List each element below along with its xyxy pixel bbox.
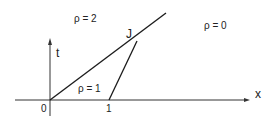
shock-line — [50, 13, 166, 100]
t-axis-arrow-icon — [48, 38, 52, 45]
characteristics-diagram: ρ = 2 ρ = 0 ρ = 1 J t x 0 1 — [0, 0, 275, 120]
characteristic-line — [109, 41, 137, 100]
one-tick-label: 1 — [106, 104, 112, 114]
t-axis-label: t — [56, 47, 59, 59]
diagram-lines — [0, 0, 275, 120]
region-label-rho-2: ρ = 2 — [74, 14, 97, 24]
region-label-rho-0: ρ = 0 — [204, 21, 227, 31]
origin-tick-label: 0 — [41, 104, 47, 114]
region-label-rho-1: ρ = 1 — [78, 84, 101, 94]
point-label-j: J — [126, 28, 132, 40]
x-axis-arrow-icon — [244, 98, 250, 102]
x-axis-label: x — [255, 88, 261, 100]
